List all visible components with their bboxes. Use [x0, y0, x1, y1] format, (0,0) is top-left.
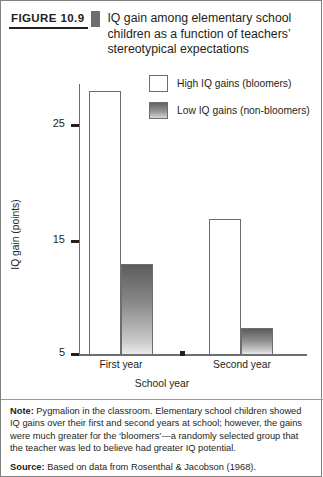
chart-legend: High IQ gains (bloomers) Low IQ gains (n…: [149, 75, 310, 129]
y-tick-mark-5: [71, 353, 79, 356]
y-tick-mark-15: [71, 240, 79, 243]
notes-divider: [1, 399, 323, 400]
note-paragraph: Note: Pygmalion in the classroom. Elemen…: [10, 405, 312, 454]
bar-second-year-non-bloomers[interactable]: [241, 328, 273, 355]
y-tick-label-25: 25: [53, 117, 65, 129]
figure-notes: Note: Pygmalion in the classroom. Elemen…: [10, 405, 312, 477]
legend-label-non-bloomers: Low IQ gains (non-bloomers): [177, 105, 310, 116]
bar-first-year-non-bloomers[interactable]: [121, 264, 153, 355]
legend-item-bloomers[interactable]: High IQ gains (bloomers): [149, 75, 310, 92]
note-label: Note:: [10, 406, 34, 416]
y-tick-label-15: 15: [53, 233, 65, 245]
source-text: Based on data from Rosenthal & Jacobson …: [45, 462, 256, 472]
chart-plot-area: 25 15 5 IQ gain (points) First year Seco…: [1, 1, 323, 401]
legend-swatch-gray-icon: [149, 102, 168, 119]
x-tick-label-first-year: First year: [81, 359, 161, 370]
y-axis-title: IQ gain (points): [10, 175, 21, 295]
legend-swatch-white-icon: [149, 75, 168, 92]
note-text: Pygmalion in the classroom. Elementary s…: [10, 406, 302, 453]
legend-item-non-bloomers[interactable]: Low IQ gains (non-bloomers): [149, 102, 310, 119]
x-tick-label-second-year: Second year: [199, 359, 285, 370]
legend-label-bloomers: High IQ gains (bloomers): [177, 78, 291, 89]
x-axis-title: School year: [1, 378, 323, 389]
x-axis-midpoint-marker: [180, 351, 185, 356]
bar-second-year-bloomers[interactable]: [209, 219, 241, 355]
source-label: Source:: [10, 462, 45, 472]
source-paragraph: Source: Based on data from Rosenthal & J…: [10, 461, 312, 473]
bar-first-year-bloomers[interactable]: [89, 91, 121, 355]
y-tick-mark-25: [71, 124, 79, 127]
y-axis-line: [79, 84, 80, 355]
y-tick-label-5: 5: [59, 346, 65, 358]
